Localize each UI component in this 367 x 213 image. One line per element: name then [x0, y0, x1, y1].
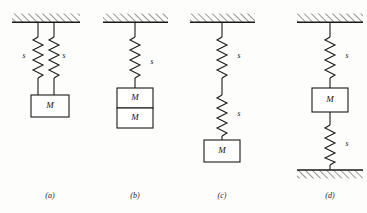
panel-caption-c: (c) [202, 191, 242, 200]
spring-label-d-upper: s [340, 51, 354, 60]
spring-b [130, 22, 140, 88]
spring-label-a-left: s [17, 51, 31, 60]
mass-label-c: M [207, 145, 237, 155]
ceiling-support-a [12, 14, 80, 23]
mass-label-d: M [315, 94, 345, 104]
mass-label-b-upper: M [120, 92, 150, 102]
coil-d-upper [325, 37, 335, 78]
panel-caption-b: (b) [115, 191, 155, 200]
ceiling-support-c [190, 14, 255, 23]
spring-d-upper [325, 22, 335, 88]
panel-caption-d: (d) [310, 191, 350, 200]
hatching-a [12, 14, 80, 23]
panel-b [103, 14, 168, 129]
coil-d-lower [325, 125, 335, 165]
ceiling-support-d [297, 14, 363, 23]
hatching-d-bottom [297, 170, 363, 179]
spring-label-b: s [145, 57, 159, 66]
ceiling-support-b [103, 14, 168, 23]
spring-label-d-lower: s [340, 139, 354, 148]
hatching-b [103, 14, 168, 23]
spring-label-c-upper: s [232, 51, 246, 60]
spring-a-left [33, 22, 43, 95]
spring-label-a-right: s [57, 51, 71, 60]
mass-label-a: M [35, 100, 65, 110]
mass-label-b-lower: M [120, 112, 150, 122]
coil-a-left [33, 37, 43, 78]
hatching-c [190, 14, 255, 23]
panel-c [190, 14, 255, 163]
spring-d-lower [325, 112, 335, 170]
spring-mass-diagram: s s s s s s s M M M M M (a) (b) (c) (d) [0, 0, 367, 213]
panel-caption-a: (a) [30, 191, 70, 200]
spring-c-upper [217, 22, 227, 95]
coil-c-upper [217, 37, 227, 78]
hatching-d-top [297, 14, 363, 23]
coil-c-lower [217, 95, 227, 136]
spring-label-c-lower: s [232, 109, 246, 118]
coil-b [130, 37, 140, 78]
floor-support-d [297, 170, 363, 179]
spring-c-lower [217, 95, 227, 140]
